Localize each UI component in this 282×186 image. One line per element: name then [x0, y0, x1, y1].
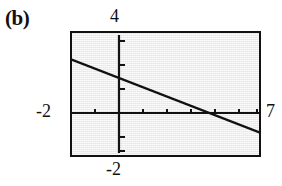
panel-label: (b) [5, 6, 29, 30]
x-axis-group [72, 109, 259, 113]
plot-axes-and-curve [72, 33, 259, 155]
y-max-label: 4 [110, 7, 119, 25]
figure-panel: (b) [0, 0, 282, 186]
y-min-label: -2 [106, 160, 121, 178]
y-axis-group [119, 35, 125, 153]
plotted-line [72, 59, 259, 133]
x-max-label: 7 [266, 102, 275, 120]
calculator-plot-frame [70, 31, 261, 157]
x-min-label: -2 [36, 102, 51, 120]
